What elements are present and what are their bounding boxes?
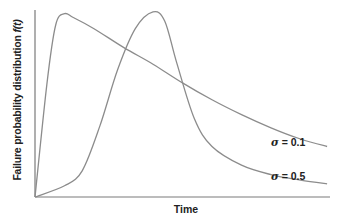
sigma-symbol: σ [271,170,279,182]
annotation-value: = 0.5 [279,170,306,182]
y-axis-label: Failure probability distribution f(t) [2,0,32,200]
annotation-sigma-0-5: σ = 0.5 [271,170,305,182]
annotation-sigma-0-1: σ = 0.1 [271,136,305,148]
y-axis-label-text: Failure probability distribution [11,33,23,181]
sigma-symbol: σ [271,136,279,148]
x-axis-label: Time [0,203,342,215]
chart-canvas [0,0,342,223]
annotation-value: = 0.1 [279,136,306,148]
y-axis-label-function: f(t) [11,19,23,32]
